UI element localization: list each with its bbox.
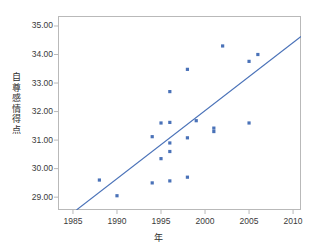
y-tick-label: 32.00: [20, 106, 53, 116]
x-tick-label: 1990: [97, 216, 137, 226]
y-tick-label: 29.00: [20, 192, 53, 202]
y-tick-label: 30.00: [20, 163, 53, 173]
y-axis-title: 自尊感情得点: [9, 72, 23, 135]
y-tick-label: 33.00: [20, 78, 53, 88]
x-tick-label: 2010: [273, 216, 313, 226]
y-tick-label: 35.00: [20, 20, 53, 30]
y-tick-label: 31.00: [20, 135, 53, 145]
x-axis-title: 年: [0, 231, 316, 244]
y-tick-label: 34.00: [20, 49, 53, 59]
x-tick-label: 2000: [185, 216, 225, 226]
x-tick-label: 1995: [141, 216, 181, 226]
x-tick-label: 1985: [53, 216, 93, 226]
x-tick-label: 2005: [229, 216, 269, 226]
plot-area: [58, 16, 301, 210]
scatter-chart: 29.0030.0031.0032.0033.0034.0035.00 1985…: [0, 0, 316, 251]
